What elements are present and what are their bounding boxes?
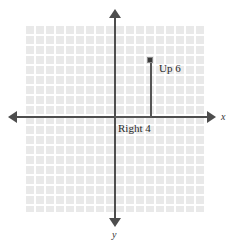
vertical-move-label: Up 6 [159,62,181,74]
x-axis-line [14,116,211,118]
plotted-point-marker [147,57,153,63]
y-axis-up-arrow-icon [109,9,121,18]
x-axis-right-arrow-icon [207,111,216,123]
x-axis-label: x [221,111,225,122]
horizontal-move-label: Right 4 [118,122,151,134]
y-axis-label: y [112,229,116,240]
coordinate-plane-figure: x y Up 6 Right 4 [0,0,238,243]
y-axis-down-arrow-icon [109,218,121,227]
horizontal-move-segment [115,116,152,118]
x-axis-left-arrow-icon [8,111,17,123]
vertical-move-segment [150,60,152,118]
